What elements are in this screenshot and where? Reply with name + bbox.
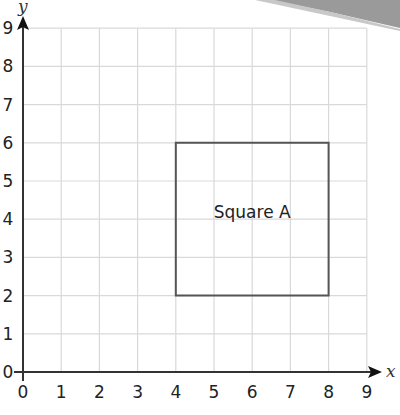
y-tick-label: 7: [3, 95, 14, 115]
coordinate-grid-chart: 0123456789 0123456789 Square A x y: [0, 0, 400, 415]
axes: [14, 16, 382, 381]
y-tick-label: 2: [3, 286, 14, 306]
x-tick-label: 2: [94, 382, 105, 402]
x-tick-label: 9: [361, 382, 372, 402]
x-tick-label: 7: [285, 382, 296, 402]
y-tick-label: 9: [3, 18, 14, 38]
y-tick-label: 5: [3, 171, 14, 191]
y-tick-label: 6: [3, 133, 14, 153]
y-tick-label: 1: [3, 324, 14, 344]
x-tick-label: 5: [209, 382, 220, 402]
x-axis-tick-labels: 0123456789: [18, 382, 373, 402]
x-axis-label: x: [386, 361, 396, 381]
x-tick-label: 3: [132, 382, 143, 402]
y-tick-label: 8: [3, 56, 14, 76]
x-tick-label: 1: [56, 382, 67, 402]
y-tick-label: 3: [3, 247, 14, 267]
y-axis-label: y: [17, 0, 28, 16]
y-tick-label: 4: [3, 209, 14, 229]
x-tick-label: 6: [247, 382, 258, 402]
x-tick-label: 8: [323, 382, 334, 402]
x-tick-label: 0: [18, 382, 29, 402]
square-a-label: Square A: [214, 202, 291, 222]
y-tick-label: 0: [3, 362, 14, 382]
y-axis-tick-labels: 0123456789: [3, 18, 14, 382]
x-tick-label: 4: [170, 382, 181, 402]
grid-lines: [23, 28, 367, 372]
